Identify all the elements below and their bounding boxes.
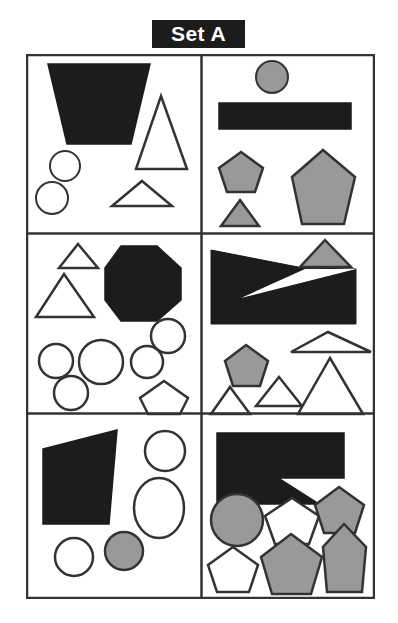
gray-circle [256,61,288,93]
panel-bottom-left[interactable] [28,416,201,597]
panel-top-left[interactable] [28,56,201,232]
gray-circle [105,532,143,570]
panel-top-right[interactable] [203,56,373,232]
set-title-banner: Set A [152,20,245,48]
shape-grid-svg [26,54,375,599]
white-ellipse [134,478,184,538]
shape-panel-grid [26,54,375,599]
panel-bottom-right[interactable] [203,416,373,597]
gray-circle [211,494,263,546]
stimulus-canvas: Set A [0,0,398,623]
black-octagon [105,246,181,321]
white-circle-right-mid [131,346,163,378]
white-circle-bottom [55,538,93,576]
white-circle-left [39,344,73,378]
white-circle-lower [36,182,68,214]
panel-middle-right[interactable] [203,236,373,414]
white-circle-bottom [54,376,88,410]
set-title-label: Set A [171,23,226,46]
white-circle-center [79,340,123,384]
black-bar [219,103,351,129]
white-circle-upper [50,151,80,181]
white-circle-top-right [145,431,185,471]
panel-middle-left[interactable] [28,236,201,414]
